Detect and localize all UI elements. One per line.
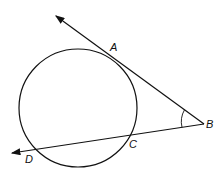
secant-line-BD: [12, 124, 204, 153]
geometry-diagram: A B C D: [0, 0, 220, 180]
angle-B-arc: [181, 110, 184, 128]
diagram-svg: [0, 0, 220, 180]
label-A: A: [110, 42, 117, 53]
label-C: C: [129, 139, 137, 150]
label-B: B: [206, 119, 213, 130]
tangent-line-BA: [56, 16, 204, 124]
label-D: D: [25, 154, 33, 165]
